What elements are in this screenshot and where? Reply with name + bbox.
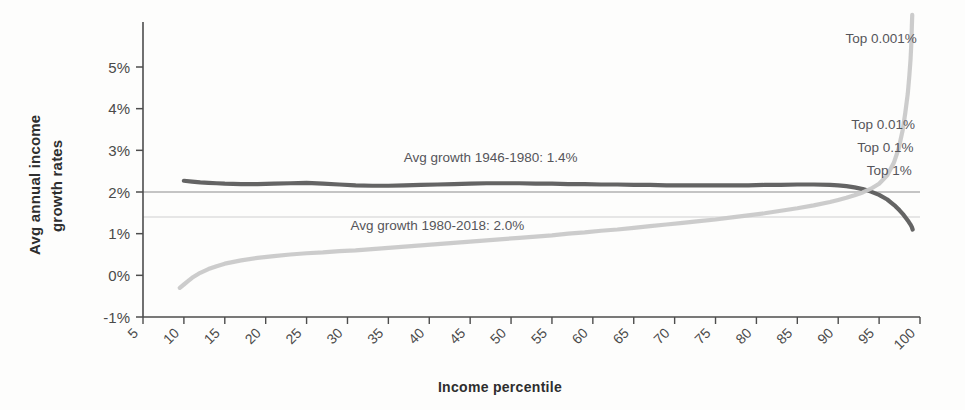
y-axis-title: Avg annual income growth rates [26,115,65,255]
x-tick-label-100: 100 [890,325,918,353]
x-tick-label-40: 40 [405,325,427,347]
x-tick-label-20: 20 [241,325,263,347]
x-tick-label-90: 90 [814,325,836,347]
x-tick-label-60: 60 [569,325,591,347]
x-tick-label-65: 65 [610,325,632,347]
y-tick-label-4%: 4% [108,100,130,117]
x-tick-label-15: 15 [201,325,223,347]
x-tick-label-30: 30 [323,325,345,347]
x-tick-label-70: 70 [650,325,672,347]
x-axis-title: Income percentile [438,379,562,395]
annotation-top-0-001: Top 0.001% [845,31,916,46]
y-tick-label--1%: -1% [103,309,130,326]
y-tick-label-0%: 0% [108,267,130,284]
x-tick-label-95: 95 [855,325,877,347]
y-tick-label-5%: 5% [108,59,130,76]
x-tick-label-45: 45 [446,325,468,347]
x-tick-label-35: 35 [364,325,386,347]
x-tick-label-75: 75 [691,325,713,347]
y-tick-label-3%: 3% [108,142,130,159]
y-axis-title-line2: growth rates [48,140,65,232]
x-tick-label-10: 10 [160,325,182,347]
x-tick-label-80: 80 [732,325,754,347]
x-tick-label-50: 50 [487,325,509,347]
x-tick-label-85: 85 [773,325,795,347]
annotation-top-1: Top 1% [867,163,912,178]
x-tick-label-5: 5 [124,325,141,342]
y-tick-label-1%: 1% [108,225,130,242]
annotation-top-0-1: Top 0.1% [857,140,913,155]
y-axis-title-line1: Avg annual income [26,115,43,255]
x-tick-label-55: 55 [528,325,550,347]
y-tick-label-2%: 2% [108,184,130,201]
plot-area: -1%0%1%2%3%4%5%5101520253035404550556065… [103,15,920,353]
chart-figure: Avg annual income growth rates Income pe… [0,0,965,410]
annotation-avg-growth-upper: Avg growth 1946-1980: 1.4% [404,150,578,165]
annotation-avg-growth-lower: Avg growth 1980-2018: 2.0% [351,218,525,233]
x-tick-label-25: 25 [282,325,304,347]
income-growth-line-chart: Avg annual income growth rates Income pe… [0,0,965,410]
annotation-top-0-01: Top 0.01% [851,117,915,132]
